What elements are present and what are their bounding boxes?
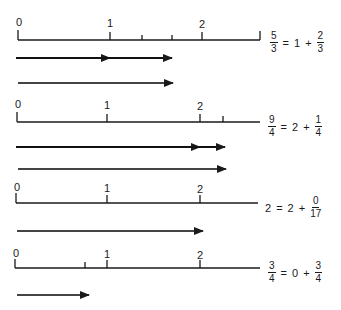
tick-label-0: 0 (13, 248, 19, 259)
fraction-remainder: 23 (317, 31, 325, 54)
whole-part: 2 (288, 202, 294, 214)
equation-4: 34 = 0 + 34 (268, 261, 322, 284)
number-line-3 (16, 193, 258, 203)
tick-label-2: 2 (197, 101, 203, 112)
tick-label-0: 0 (14, 182, 20, 193)
tick-label-2: 2 (199, 19, 205, 30)
fraction-lhs: 34 (268, 261, 276, 284)
equals-sign: = (281, 267, 287, 279)
number-line-1 (18, 30, 260, 40)
fraction-lhs: 53 (270, 31, 278, 54)
fraction-lhs: 94 (268, 115, 276, 138)
tick-label-1: 1 (107, 18, 113, 29)
equation-1: 53 = 1 + 23 (270, 31, 324, 54)
number-line-2 (17, 112, 260, 122)
tick-label-2: 2 (197, 184, 203, 195)
plus-sign: + (305, 37, 311, 49)
tick-label-0: 0 (15, 99, 21, 110)
number-line-4 (15, 259, 260, 268)
tick-label-1: 1 (104, 249, 110, 260)
tick-label-1: 1 (104, 100, 110, 111)
plus-sign: + (299, 202, 305, 214)
arrows-2 (16, 147, 226, 169)
whole-part: 2 (292, 121, 298, 133)
fraction-remainder: 34 (315, 261, 323, 284)
lhs-value: 2 (265, 202, 271, 214)
whole-part: 1 (294, 37, 300, 49)
tick-label-2: 2 (197, 250, 203, 261)
plus-sign: + (303, 267, 309, 279)
plus-sign: + (303, 121, 309, 133)
tick-label-1: 1 (104, 183, 110, 194)
equals-sign: = (276, 202, 282, 214)
fraction-remainder: 017 (310, 196, 321, 219)
whole-part: 0 (292, 267, 298, 279)
fraction-remainder: 14 (315, 115, 323, 138)
equals-sign: = (281, 121, 287, 133)
equation-2: 94 = 2 + 14 (268, 115, 322, 138)
tick-label-0: 0 (16, 17, 22, 28)
equals-sign: = (283, 37, 289, 49)
equation-3: 2 = 2 + 017 (265, 196, 321, 219)
arrows-1 (16, 58, 173, 83)
